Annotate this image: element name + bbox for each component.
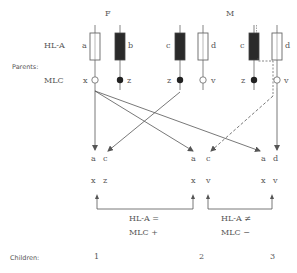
chromosome-mother-d-left xyxy=(198,25,208,90)
comparison-1-hla: HL-A = xyxy=(129,215,159,223)
allele-z: z xyxy=(241,77,245,85)
allele-b: b xyxy=(128,42,133,50)
bead-open-icon xyxy=(200,77,206,83)
bead-open-icon xyxy=(92,77,98,83)
bead-solid-icon xyxy=(117,77,123,83)
child2-number: 2 xyxy=(199,253,204,261)
allele-z: z xyxy=(167,77,171,85)
arrow-c-to-child1 xyxy=(108,92,180,151)
parents-label: Parents: xyxy=(12,63,38,71)
bead-solid-icon xyxy=(177,77,183,83)
child2-hla-2: c xyxy=(206,155,210,163)
allele-v: v xyxy=(284,77,289,85)
arrow-recomb-to-child2 xyxy=(211,96,273,151)
chromosome-mother-c-left xyxy=(175,25,185,90)
allele-d: d xyxy=(285,42,290,50)
allele-z: z xyxy=(127,77,131,85)
bracket-1-2 xyxy=(95,194,195,209)
child1-mlc-1: x xyxy=(91,177,96,185)
chromosome-father-a xyxy=(90,25,100,90)
allele-a: a xyxy=(82,42,87,50)
arrow-x-to-child3 xyxy=(95,91,260,151)
children-label: Children: xyxy=(10,254,39,262)
child1-number: 1 xyxy=(94,253,99,261)
comparison-1-mlc: MLC + xyxy=(129,229,158,237)
child3-hla-2: d xyxy=(273,155,278,163)
child2-mlc-1: x xyxy=(191,177,196,185)
child1-mlc-2: z xyxy=(103,177,107,185)
child3-hla-1: a xyxy=(261,155,266,163)
mother-label: M xyxy=(226,10,234,18)
father-label: F xyxy=(105,10,111,18)
allele-c: c xyxy=(240,42,244,50)
child1-hla-1: a xyxy=(91,155,96,163)
allele-c: c xyxy=(166,42,170,50)
bead-open-icon xyxy=(274,77,280,83)
chromosome-mother-c-right xyxy=(249,25,259,90)
comparison-2-mlc: MLC − xyxy=(221,229,250,237)
child2-mlc-2: v xyxy=(206,177,211,185)
child3-mlc-2: v xyxy=(273,177,278,185)
chromosome-mother-d-right xyxy=(272,25,282,88)
chromosome-father-b xyxy=(115,25,125,90)
hla-row-label: HL-A xyxy=(44,42,65,50)
allele-d: d xyxy=(211,42,216,50)
allele-v: v xyxy=(211,77,216,85)
child3-number: 3 xyxy=(270,253,275,261)
allele-x: x xyxy=(83,77,88,85)
bead-solid-icon xyxy=(251,77,257,83)
child1-hla-2: c xyxy=(103,155,107,163)
mlc-row-label: MLC xyxy=(44,77,64,85)
comparison-2-hla: HL-A ≠ xyxy=(221,215,251,223)
child3-mlc-1: x xyxy=(261,177,266,185)
recombination-path xyxy=(258,58,273,96)
bracket-2-3 xyxy=(206,194,274,209)
child2-hla-1: a xyxy=(191,155,196,163)
